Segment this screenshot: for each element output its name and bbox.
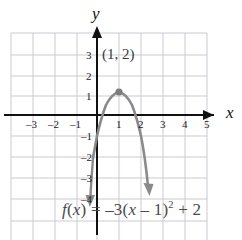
equation-inner-const: 1) bbox=[154, 200, 169, 219]
x-tick-label: –1 bbox=[70, 119, 81, 130]
y-tick-label: 1 bbox=[86, 91, 92, 102]
x-tick-label: 5 bbox=[204, 119, 210, 130]
equation-minus: – bbox=[136, 200, 154, 219]
y-tick-label: –1 bbox=[81, 131, 92, 142]
y-tick-label: –2 bbox=[81, 152, 92, 163]
y-tick-label: 2 bbox=[86, 71, 92, 82]
x-tick-label: 1 bbox=[116, 119, 122, 130]
x-axis-label: x bbox=[226, 104, 234, 121]
x-tick-label: –2 bbox=[48, 119, 59, 130]
equation-coefficient: –3( bbox=[105, 200, 128, 219]
equation-var: x bbox=[73, 200, 81, 219]
equation-equals: = bbox=[86, 200, 105, 219]
x-tick-label: 2 bbox=[138, 119, 144, 130]
y-tick-label: –3 bbox=[81, 173, 92, 184]
graph-figure: y x –3 –2 –1 1 2 3 4 5 3 2 1 –1 –2 –3 –4… bbox=[0, 0, 242, 240]
x-tick-label: –3 bbox=[26, 119, 37, 130]
equation-label: f(x) = –3(x – 1)2 + 2 bbox=[62, 200, 201, 218]
x-tick-label: 4 bbox=[182, 119, 188, 130]
equation-inner-var: x bbox=[128, 200, 136, 219]
vertex-point bbox=[115, 88, 122, 95]
y-tick-label: 3 bbox=[86, 50, 92, 61]
x-tick-label: 3 bbox=[160, 119, 166, 130]
equation-plus-const: + 2 bbox=[174, 200, 201, 219]
y-axis-label: y bbox=[92, 5, 100, 22]
vertex-annotation: (1, 2) bbox=[102, 47, 135, 62]
